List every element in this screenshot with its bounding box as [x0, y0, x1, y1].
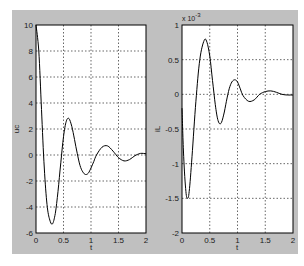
right-y-tick-labels: -2-1.5-1-0.500.51	[165, 21, 179, 238]
y-tick-label: 0	[29, 151, 34, 160]
y-tick-label: 6	[29, 73, 34, 82]
figure-canvas: -6-4-20246810 00.511.52 t uc -2-1.5-1-0.…	[0, 0, 304, 266]
x-tick-label: 0	[180, 236, 185, 245]
right-plot-area	[182, 25, 293, 233]
exponent-label: x 10-3	[182, 12, 201, 22]
y-tick-label: -1	[172, 160, 180, 169]
x-tick-label: 0.5	[58, 236, 70, 245]
right-axes: -2-1.5-1-0.500.51 00.511.52 t iL x 10-3	[153, 12, 296, 252]
left-axes: -6-4-20246810 00.511.52 t uc	[12, 21, 149, 252]
y-tick-label: 0	[175, 90, 180, 99]
left-y-axis-label: uc	[12, 125, 21, 133]
y-tick-label: -6	[26, 229, 34, 238]
y-tick-label: -0.5	[165, 125, 179, 134]
right-y-axis-label: iL	[153, 125, 162, 132]
left-plot-area	[36, 25, 146, 233]
y-tick-label: 10	[24, 21, 33, 30]
y-tick-label: -2	[172, 229, 180, 238]
x-tick-label: 1.5	[113, 236, 125, 245]
y-tick-label: 1	[175, 21, 180, 30]
x-tick-label: 2	[291, 236, 296, 245]
y-tick-label: 8	[29, 47, 34, 56]
y-tick-label: -4	[26, 203, 34, 212]
left-y-tick-labels: -6-4-20246810	[24, 21, 33, 238]
y-tick-label: -1.5	[165, 194, 179, 203]
x-tick-label: 0.5	[204, 236, 216, 245]
y-tick-label: 4	[29, 99, 34, 108]
y-tick-label: -2	[26, 177, 34, 186]
x-tick-label: 2	[144, 236, 149, 245]
x-tick-label: 1.5	[260, 236, 272, 245]
x-tick-label: 0	[34, 236, 39, 245]
y-tick-label: 0.5	[168, 56, 180, 65]
y-tick-label: 2	[29, 125, 34, 134]
